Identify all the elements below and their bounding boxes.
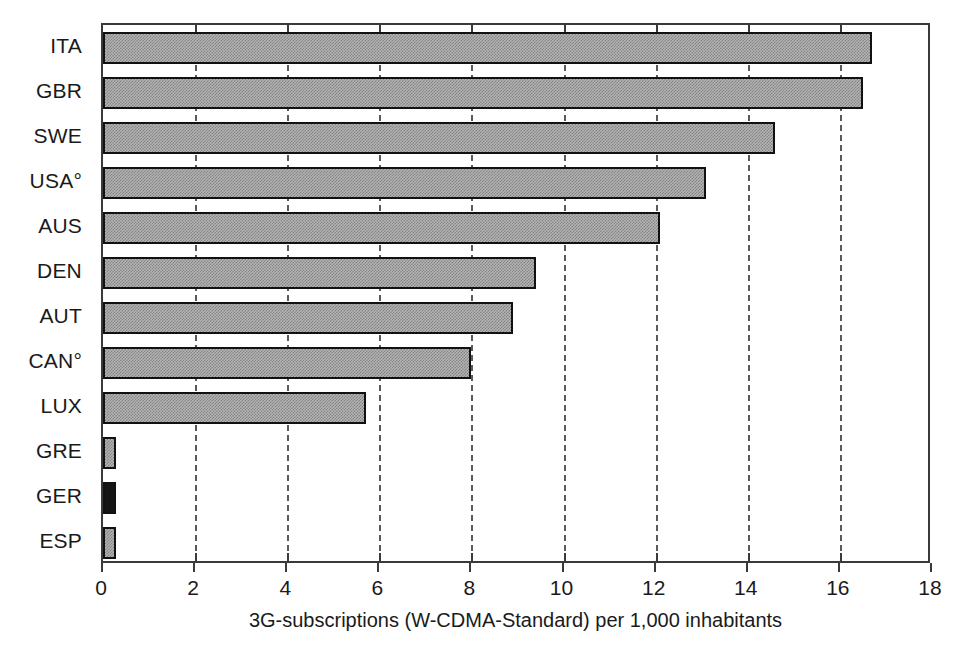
bar — [103, 212, 660, 244]
axis-tick-mark — [287, 553, 289, 561]
x-axis-tick-marks — [101, 563, 930, 575]
bar — [103, 122, 775, 154]
x-tick — [654, 563, 656, 572]
axis-tick-mark — [748, 553, 750, 561]
x-axis-tick-labels: 024681012141618 — [101, 576, 930, 604]
bar — [103, 77, 863, 109]
axis-tick-mark — [471, 553, 473, 561]
plot-area — [101, 23, 930, 563]
x-tick-label: 0 — [95, 576, 107, 600]
x-tick-label: 4 — [279, 576, 291, 600]
category-label: USA° — [0, 170, 82, 191]
x-tick-label: 18 — [918, 576, 941, 600]
y-axis-category-labels: ITAGBRSWEUSA°AUSDENAUTCAN°LUXGREGERESP — [0, 23, 92, 563]
category-label: GER — [0, 485, 82, 506]
axis-tick-mark — [840, 553, 842, 561]
x-tick — [101, 563, 103, 572]
x-tick — [193, 563, 195, 572]
category-label: ITA — [0, 35, 82, 56]
bar — [103, 32, 872, 64]
category-label: CAN° — [0, 350, 82, 371]
x-axis-title: 3G-subscriptions (W-CDMA-Standard) per 1… — [101, 608, 930, 632]
bar-chart: ITAGBRSWEUSA°AUSDENAUTCAN°LUXGREGERESP 0… — [0, 0, 962, 669]
x-tick — [377, 563, 379, 572]
category-label: AUS — [0, 215, 82, 236]
x-tick — [562, 563, 564, 572]
bar — [103, 392, 366, 424]
category-label: SWE — [0, 125, 82, 146]
x-tick — [838, 563, 840, 572]
x-tick-label: 14 — [734, 576, 757, 600]
axis-tick-mark — [379, 553, 381, 561]
x-tick-label: 16 — [826, 576, 849, 600]
bar — [103, 347, 471, 379]
x-tick-label: 8 — [464, 576, 476, 600]
axis-tick-mark — [195, 553, 197, 561]
x-tick — [930, 563, 932, 572]
x-tick-label: 6 — [371, 576, 383, 600]
x-tick-label: 2 — [187, 576, 199, 600]
bar — [103, 482, 116, 514]
bar — [103, 257, 536, 289]
category-label: GBR — [0, 80, 82, 101]
x-tick-label: 10 — [550, 576, 573, 600]
axis-tick-mark — [564, 553, 566, 561]
x-tick — [285, 563, 287, 572]
bar — [103, 527, 116, 559]
bar — [103, 167, 706, 199]
category-label: DEN — [0, 260, 82, 281]
bar — [103, 302, 513, 334]
x-tick-label: 12 — [642, 576, 665, 600]
x-tick — [469, 563, 471, 572]
axis-tick-mark — [656, 553, 658, 561]
category-label: GRE — [0, 440, 82, 461]
category-label: AUT — [0, 305, 82, 326]
category-label: ESP — [0, 530, 82, 551]
x-tick — [746, 563, 748, 572]
category-label: LUX — [0, 395, 82, 416]
bar — [103, 437, 116, 469]
